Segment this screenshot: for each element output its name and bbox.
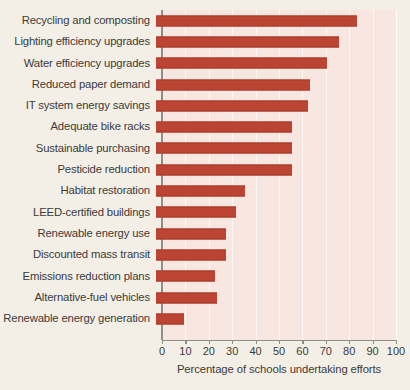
bar-track	[156, 31, 410, 52]
bar	[156, 122, 292, 133]
bar-track	[156, 266, 410, 287]
x-axis-tick	[256, 340, 257, 344]
x-axis-tick-label: 30	[226, 345, 238, 357]
bar-category-label: Emissions reduction plans	[0, 271, 156, 282]
x-axis-tick	[279, 340, 280, 344]
x-axis-tick	[373, 340, 374, 344]
x-axis-tick	[396, 340, 397, 344]
bar	[156, 292, 217, 303]
x-axis-tick	[349, 340, 350, 344]
x-axis-tick-label: 80	[343, 345, 355, 357]
bar	[156, 100, 308, 111]
bar-category-label: Adequate bike racks	[0, 121, 156, 132]
bar-category-label: Water efficiency upgrades	[0, 58, 156, 69]
bar-row: Habitat restoration	[0, 180, 410, 201]
bar	[156, 36, 339, 47]
x-axis-tick-label: 100	[387, 345, 405, 357]
bar	[156, 164, 292, 175]
bar-track	[156, 95, 410, 116]
bar-rows: Recycling and compostingLighting efficie…	[0, 10, 410, 329]
bar-row: Recycling and composting	[0, 10, 410, 31]
x-axis-tick-label: 0	[159, 345, 165, 357]
bar-track	[156, 74, 410, 95]
bar-track	[156, 202, 410, 223]
x-axis-tick	[232, 340, 233, 344]
bar	[156, 249, 226, 260]
x-axis-tick-label: 40	[249, 345, 261, 357]
bar-category-label: Recycling and composting	[0, 15, 156, 26]
bar-track	[156, 116, 410, 137]
bar-category-label: Sustainable purchasing	[0, 143, 156, 154]
bar-row: IT system energy savings	[0, 95, 410, 116]
bar-row: Lighting efficiency upgrades	[0, 31, 410, 52]
x-axis-tick-label: 20	[203, 345, 215, 357]
x-axis-tick-label: 10	[179, 345, 191, 357]
x-axis-tick	[209, 340, 210, 344]
bar-row: Emissions reduction plans	[0, 266, 410, 287]
bar-category-label: Pesticide reduction	[0, 164, 156, 175]
bar-row: Alternative-fuel vehicles	[0, 287, 410, 308]
x-axis-tick-label: 90	[366, 345, 378, 357]
bar-category-label: Alternative-fuel vehicles	[0, 292, 156, 303]
bar	[156, 186, 245, 197]
bar-category-label: Reduced paper demand	[0, 79, 156, 90]
bar-category-label: Renewable energy generation	[0, 313, 156, 324]
bar-row: Water efficiency upgrades	[0, 53, 410, 74]
bar-category-label: Lighting efficiency upgrades	[0, 36, 156, 47]
bar	[156, 207, 236, 218]
x-axis-tick	[326, 340, 327, 344]
x-axis-tick-label: 70	[320, 345, 332, 357]
bar-category-label: Discounted mass transit	[0, 249, 156, 260]
bar-track	[156, 10, 410, 31]
bar	[156, 271, 215, 282]
bar	[156, 79, 310, 90]
bar-chart: Recycling and compostingLighting efficie…	[0, 0, 410, 390]
bar	[156, 228, 226, 239]
bar	[156, 313, 184, 324]
bar-row: Renewable energy use	[0, 223, 410, 244]
bar-track	[156, 287, 410, 308]
x-axis-tick	[162, 340, 163, 344]
bar-category-label: Habitat restoration	[0, 185, 156, 196]
x-axis-tick-label: 60	[296, 345, 308, 357]
bar-row: Adequate bike racks	[0, 116, 410, 137]
bar-track	[156, 53, 410, 74]
x-axis-tick	[302, 340, 303, 344]
x-axis-title: Percentage of schools undertaking effort…	[162, 363, 396, 375]
x-axis-tick	[185, 340, 186, 344]
bar	[156, 143, 292, 154]
bar-row: Renewable energy generation	[0, 308, 410, 329]
bar-row: LEED-certified buildings	[0, 202, 410, 223]
bar-row: Sustainable purchasing	[0, 138, 410, 159]
bar	[156, 58, 327, 69]
bar-track	[156, 223, 410, 244]
bar-row: Discounted mass transit	[0, 244, 410, 265]
x-axis-tick-label: 50	[273, 345, 285, 357]
bar-category-label: Renewable energy use	[0, 228, 156, 239]
bar-track	[156, 180, 410, 201]
bar-row: Pesticide reduction	[0, 159, 410, 180]
bar-track	[156, 159, 410, 180]
bar-track	[156, 308, 410, 329]
bar-track	[156, 138, 410, 159]
bar-row: Reduced paper demand	[0, 74, 410, 95]
bar	[156, 15, 357, 26]
bar-track	[156, 244, 410, 265]
bar-category-label: LEED-certified buildings	[0, 207, 156, 218]
bar-category-label: IT system energy savings	[0, 100, 156, 111]
